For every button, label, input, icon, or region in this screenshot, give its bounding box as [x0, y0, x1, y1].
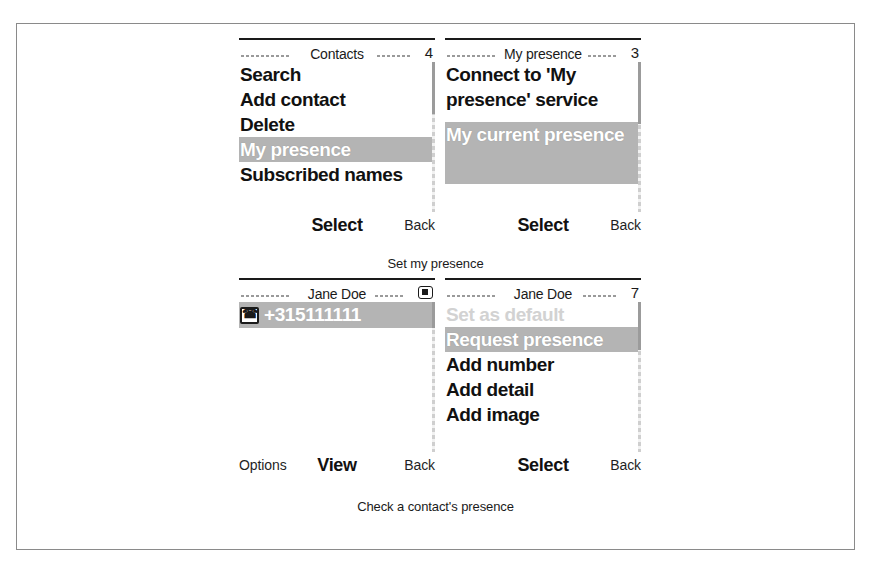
titlebar-jane-doe-options: Jane Doe 7: [445, 278, 641, 302]
menu-item-add-detail[interactable]: Add detail: [445, 377, 641, 402]
titlebar-jane-doe-details: Jane Doe: [239, 278, 435, 302]
screen-jane-doe-details: Jane Doe +315111111 Options View Back: [239, 278, 435, 478]
menu-item-add-contact[interactable]: Add contact: [239, 87, 435, 112]
menu-list-my-presence[interactable]: Connect to 'My presence' service My curr…: [445, 62, 641, 212]
scrollbar[interactable]: [638, 62, 641, 212]
title-rule-left: [447, 295, 495, 297]
title-rule-left: [241, 295, 289, 297]
softkey-back[interactable]: Back: [404, 217, 435, 233]
scrollbar-thumb[interactable]: [432, 302, 435, 328]
softkeys-jane-doe-details: Options View Back: [239, 452, 435, 478]
list-gap: [445, 112, 641, 122]
menu-item-set-as-default: Set as default: [445, 302, 641, 327]
contact-card-icon: [418, 286, 433, 299]
caption-set-my-presence: Set my presence: [17, 256, 854, 271]
title-rule-right: [583, 55, 617, 57]
softkey-view[interactable]: View: [317, 455, 357, 476]
titlebar-my-presence: My presence 3: [445, 38, 641, 62]
title-rule-right: [375, 295, 405, 297]
softkey-back[interactable]: Back: [610, 457, 641, 473]
item-count-badge: 3: [631, 45, 639, 61]
menu-item-my-presence[interactable]: My presence: [239, 137, 435, 162]
phone-screen-jane-doe-details: Jane Doe +315111111 Options View Back: [239, 278, 435, 478]
menu-item-add-image[interactable]: Add image: [445, 402, 641, 427]
screen-title: My presence: [500, 46, 586, 62]
menu-item-search[interactable]: Search: [239, 62, 435, 87]
scrollbar-thumb[interactable]: [638, 62, 641, 124]
phone-screen-contacts: Contacts 4 Search Add contact Delete My …: [239, 38, 435, 238]
menu-list-contacts[interactable]: Search Add contact Delete My presence Su…: [239, 62, 435, 212]
titlebar-contacts: Contacts 4: [239, 38, 435, 62]
screen-my-presence: My presence 3 Connect to 'My presence' s…: [445, 38, 641, 238]
title-rule-left: [447, 55, 495, 57]
item-count-badge: 7: [631, 285, 639, 301]
softkeys-jane-doe-options: Select Back: [445, 452, 641, 478]
scrollbar[interactable]: [432, 302, 435, 452]
softkeys-my-presence: Select Back: [445, 212, 641, 238]
softkey-back[interactable]: Back: [404, 457, 435, 473]
softkey-options[interactable]: Options: [239, 457, 287, 473]
phone-screen-jane-doe-options: Jane Doe 7 Set as default Request presen…: [445, 278, 641, 478]
softkey-back[interactable]: Back: [610, 217, 641, 233]
menu-item-add-number[interactable]: Add number: [445, 352, 641, 377]
screen-contacts: Contacts 4 Search Add contact Delete My …: [239, 38, 435, 238]
contact-number-value: +315111111: [264, 304, 361, 326]
title-rule-right: [377, 55, 411, 57]
softkey-select[interactable]: Select: [517, 215, 568, 236]
menu-item-subscribed-names[interactable]: Subscribed names: [239, 162, 435, 187]
figure-frame: Contacts 4 Search Add contact Delete My …: [16, 23, 855, 550]
screen-title: Contacts: [306, 46, 368, 62]
screen-title: Jane Doe: [304, 286, 370, 302]
screens-grid: Contacts 4 Search Add contact Delete My …: [17, 24, 854, 549]
screen-title: Jane Doe: [510, 286, 576, 302]
scrollbar[interactable]: [432, 62, 435, 212]
menu-item-request-presence[interactable]: Request presence: [445, 327, 641, 352]
title-rule-left: [241, 55, 289, 57]
scrollbar-thumb[interactable]: [432, 62, 435, 114]
detail-list-jane-doe[interactable]: +315111111: [239, 302, 435, 452]
menu-item-connect-service[interactable]: Connect to 'My presence' service: [445, 62, 641, 112]
phone-icon: [240, 307, 259, 324]
screen-jane-doe-options: Jane Doe 7 Set as default Request presen…: [445, 278, 641, 478]
softkeys-contacts: Select Back: [239, 212, 435, 238]
item-count-badge: 4: [425, 45, 433, 61]
menu-list-jane-doe-options[interactable]: Set as default Request presence Add numb…: [445, 302, 641, 452]
scrollbar-thumb[interactable]: [638, 302, 641, 350]
title-rule-right: [583, 295, 617, 297]
contact-number-row[interactable]: +315111111: [239, 302, 435, 328]
menu-item-my-current-presence[interactable]: My current presence: [445, 122, 641, 184]
caption-check-contact-presence: Check a contact's presence: [17, 499, 854, 514]
scrollbar[interactable]: [638, 302, 641, 452]
menu-item-delete[interactable]: Delete: [239, 112, 435, 137]
phone-screen-my-presence: My presence 3 Connect to 'My presence' s…: [445, 38, 641, 238]
softkey-select[interactable]: Select: [517, 455, 568, 476]
softkey-select[interactable]: Select: [311, 215, 362, 236]
